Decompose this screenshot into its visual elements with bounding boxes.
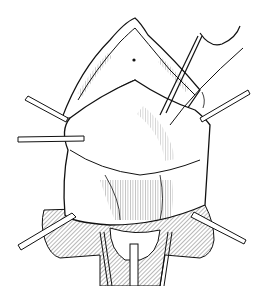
retractor-left	[18, 136, 84, 142]
illustration-canvas	[0, 0, 266, 286]
retractor-upper-left	[25, 96, 68, 122]
surgical-illustration	[0, 0, 266, 286]
retractor-upper-right	[200, 90, 250, 122]
